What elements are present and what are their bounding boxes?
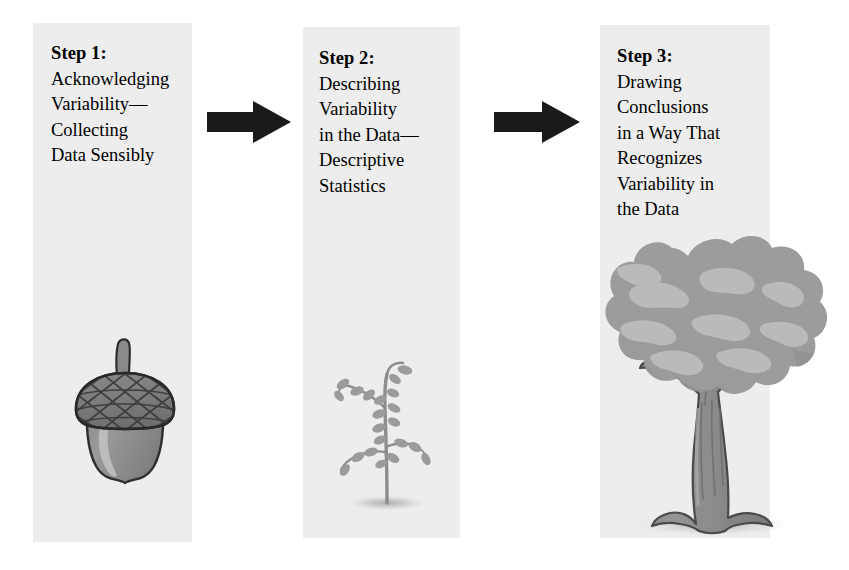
step-1-line-4: Data Sensibly <box>51 143 192 169</box>
step-3-text-block: Step 3: Drawing Conclusions in a Way Tha… <box>600 25 770 223</box>
step-1-line-3: Collecting <box>51 118 192 144</box>
step-2-heading: Step 2: <box>319 46 460 72</box>
step-1-heading: Step 1: <box>51 41 192 67</box>
step-2-text-block: Step 2: Describing Variability in the Da… <box>303 27 460 199</box>
step-1-line-2: Variability— <box>51 92 192 118</box>
step-1-text-block: Step 1: Acknowledging Variability— Colle… <box>33 23 192 169</box>
step-2-line-3: in the Data— <box>319 123 460 149</box>
step-2-body: Describing Variability in the Data— Desc… <box>319 72 460 200</box>
connector-arrow-1 <box>207 101 291 143</box>
step-3-line-5: Variability in <box>617 172 770 198</box>
step-3-heading: Step 3: <box>617 44 770 70</box>
step-1-line-1: Acknowledging <box>51 67 192 93</box>
step-2-line-5: Statistics <box>319 174 460 200</box>
step-3-line-4: Recognizes <box>617 146 770 172</box>
acorn-illustration <box>56 336 196 486</box>
diagram-canvas: Step 1: Acknowledging Variability— Colle… <box>0 0 849 570</box>
right-arrow-icon <box>494 101 580 143</box>
sapling-stems <box>339 363 426 503</box>
step-3-line-6: the Data <box>617 197 770 223</box>
step-2-line-2: Variability <box>319 97 460 123</box>
connector-arrow-2 <box>494 101 580 143</box>
sapling-illustration <box>325 352 455 514</box>
tree-trunk-highlight <box>697 408 699 506</box>
right-arrow-icon <box>207 101 291 143</box>
step-3-body: Drawing Conclusions in a Way That Recogn… <box>617 70 770 223</box>
acorn-stem <box>116 339 130 377</box>
step-2-line-4: Descriptive <box>319 148 460 174</box>
oak-tree-illustration <box>592 228 832 540</box>
step-2-line-1: Describing <box>319 72 460 98</box>
step-3-line-2: Conclusions <box>617 95 770 121</box>
step-1-body: Acknowledging Variability— Collecting Da… <box>51 67 192 169</box>
step-3-line-1: Drawing <box>617 70 770 96</box>
step-3-line-3: in a Way That <box>617 121 770 147</box>
tree-canopy <box>592 236 827 397</box>
